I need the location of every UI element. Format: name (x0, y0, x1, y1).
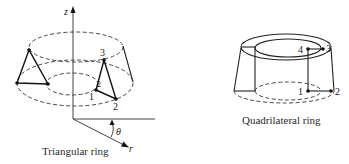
quad-node-2 (329, 89, 333, 93)
quad-node-3 (321, 47, 325, 51)
quad-node-label-3: 3 (326, 43, 331, 54)
quad-node-label-4: 4 (298, 44, 303, 55)
quad-node-4 (306, 47, 310, 51)
left-node-bottom-right (46, 82, 50, 86)
node-label-1: 1 (89, 91, 94, 102)
outer-wall-right (331, 48, 334, 91)
theta-label: θ (116, 126, 121, 137)
interior-mark: 2 (97, 80, 101, 89)
quad-node-label-1: 1 (298, 86, 303, 97)
node-label-2: 2 (113, 101, 118, 112)
bottom-outer-ellipse (234, 91, 334, 103)
ring-outer-edge (123, 46, 133, 82)
figure-canvas: z r θ 3 1 2 2 Triangular ring (0, 0, 349, 164)
theta-arrow-icon (110, 120, 115, 126)
bottom-inner-ellipse-front (255, 91, 321, 100)
left-node-bottom-left (15, 81, 19, 85)
r-axis-arrow-icon (121, 142, 129, 148)
z-axis-label: z (63, 6, 68, 17)
node-label-3: 3 (100, 47, 105, 58)
outer-wall-left (234, 48, 241, 91)
triangular-ring-caption: Triangular ring (42, 145, 109, 157)
triangular-ring-diagram: z r θ 3 1 2 2 Triangular ring (15, 6, 155, 157)
z-axis-arrow-icon (71, 6, 76, 13)
r-axis-label: r (129, 143, 133, 154)
quadrilateral-ring-caption: Quadrilateral ring (242, 114, 321, 126)
quadrilateral-ring-diagram: 4 3 1 2 Quadrilateral ring (234, 34, 340, 126)
node-3 (102, 58, 106, 62)
inner-top-ellipse (255, 39, 321, 57)
bottom-inner-ellipse (255, 82, 321, 91)
top-sweep-ellipse (29, 32, 123, 62)
theta-arc (111, 123, 113, 137)
left-node-top (27, 48, 31, 52)
quad-node-label-2: 2 (335, 86, 340, 97)
quad-node-1 (306, 89, 310, 93)
